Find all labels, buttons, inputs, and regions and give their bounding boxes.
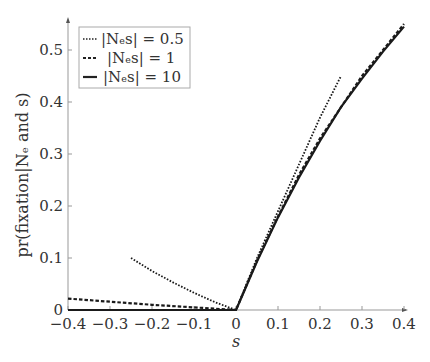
- x-tick-label: 0: [231, 315, 241, 333]
- legend-label-1: |Nₑs| = 1: [107, 49, 175, 67]
- y-tick-label: 0.2: [39, 197, 63, 215]
- x-axis-arrow-icon: [402, 308, 408, 312]
- legend: |Nₑs| = 0.5 |Nₑs| = 1 |Nₑs| = 10: [79, 27, 190, 88]
- chart-canvas: −0.4−0.3−0.2−0.100.10.20.30.4 00.10.20.3…: [0, 0, 430, 362]
- y-ticks: 00.10.20.30.40.5: [39, 41, 72, 319]
- series-line-dotted: [131, 76, 341, 310]
- y-tick-label: 0.3: [39, 145, 63, 163]
- x-tick-label: 0.3: [350, 315, 374, 333]
- y-tick-label: 0.4: [39, 93, 63, 111]
- x-tick-label: 0.2: [308, 315, 332, 333]
- x-tick-label: 0.4: [392, 315, 416, 333]
- x-tick-label: −0.2: [134, 315, 170, 333]
- y-tick-label: 0.5: [39, 41, 63, 59]
- y-axis-arrow-icon: [66, 17, 70, 23]
- x-tick-label: −0.3: [92, 315, 128, 333]
- y-tick-label: 0.1: [39, 249, 63, 267]
- x-axis-label: s: [232, 332, 240, 351]
- x-tick-label: 0.1: [266, 315, 290, 333]
- legend-label-0: |Nₑs| = 0.5: [101, 30, 184, 48]
- y-axis-label: pr(fixation|Nₑ and s): [13, 92, 32, 257]
- legend-label-2: |Nₑs| = 10: [103, 68, 181, 86]
- y-tick-label: 0: [53, 301, 63, 319]
- x-tick-label: −0.1: [176, 315, 212, 333]
